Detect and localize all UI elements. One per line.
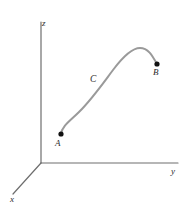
coordinate-axes-diagram — [0, 0, 193, 210]
curve-group — [61, 48, 157, 134]
point-a-label: A — [55, 139, 61, 148]
x-axis-label: x — [10, 195, 14, 204]
curve-c-label: C — [90, 75, 96, 85]
x-axis-line — [13, 163, 41, 194]
point-b-marker — [154, 61, 159, 66]
point-b-label: B — [153, 68, 159, 77]
axes-group — [13, 22, 178, 194]
figure-canvas: z y x A B C — [0, 0, 193, 210]
y-axis-label: y — [171, 167, 175, 176]
endpoints-group — [58, 61, 159, 136]
curve-c-path — [61, 48, 157, 134]
z-axis-label: z — [42, 19, 46, 28]
point-a-marker — [58, 131, 63, 136]
